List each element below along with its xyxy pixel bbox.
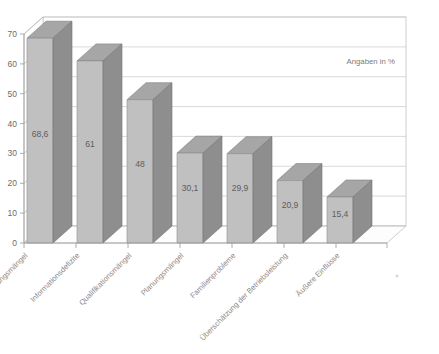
x-category-labels: Finanzierungsmängel Informationsdefizite… [0,251,341,343]
x-category-label: Äußere Einflüsse [294,251,341,298]
bar-value-label: 29,9 [232,183,249,193]
bar-value-label: 61 [85,139,95,149]
bar-value-label: 20,9 [282,200,299,210]
bar-chart-figure: 70 60 50 40 30 20 10 0 [0,0,439,354]
y-tick-label: 70 [8,29,18,39]
y-tick-label: 10 [8,208,18,218]
bar-item[interactable] [77,44,122,243]
x-axis [24,243,387,248]
y-axis [20,34,24,243]
x-category-label: Informationsdefizite [28,251,81,304]
y-tick-label: 60 [8,59,18,69]
chart-canvas: 70 60 50 40 30 20 10 0 [0,0,439,354]
x-category-label: Überschätzung der Betriebsleistung [198,251,289,342]
bar-value-label: 68,6 [32,129,49,139]
bar-value-label: 48 [135,159,145,169]
bar-value-label: 15,4 [332,209,349,219]
y-tick-label: 0 [12,238,17,248]
bar-item[interactable] [127,83,172,243]
x-category-label: Planungsmängel [139,251,186,298]
y-tick-label: 20 [8,178,18,188]
chart-annotation: Angaben in % [346,57,395,66]
y-tick-label: 50 [8,89,18,99]
bar-value-label: 30,1 [182,183,199,193]
y-tick-label: 30 [8,148,18,158]
x-category-label: Finanzierungsmängel [0,251,30,309]
y-tick-labels: 70 60 50 40 30 20 10 0 [8,29,18,248]
scan-artifact-speck [395,274,398,277]
y-tick-label: 40 [8,119,18,129]
x-category-label: Qualifikationsmängel [77,251,133,307]
x-category-label: Familienprobleme [188,251,237,300]
